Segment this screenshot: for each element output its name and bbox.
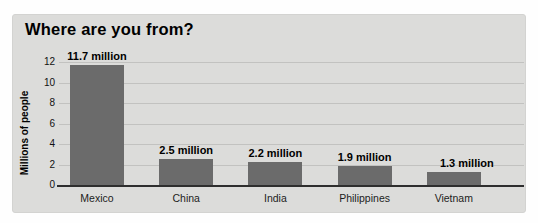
bar-value-label: 11.7 million (47, 50, 147, 63)
gridline (59, 103, 524, 104)
x-tick-label: Mexico (47, 192, 147, 204)
x-tick-label: Vietnam (404, 192, 504, 204)
bar (248, 162, 302, 185)
x-axis-line (57, 185, 524, 187)
bar-value-label: 1.3 million (417, 157, 517, 170)
bar-value-label: 2.5 million (136, 144, 236, 157)
page: Where are you from? Millions of people 0… (0, 0, 538, 223)
y-tick-label: 0 (23, 179, 55, 191)
bar (159, 159, 213, 185)
y-tick-label: 2 (23, 159, 55, 171)
bar-value-label: 1.9 million (315, 151, 415, 164)
y-tick-label: 6 (23, 118, 55, 130)
bar (427, 172, 481, 185)
gridline (59, 83, 524, 84)
y-tick-label: 10 (23, 77, 55, 89)
y-tick-label: 8 (23, 97, 55, 109)
bar (338, 166, 392, 185)
chart-panel: Where are you from? Millions of people 0… (12, 14, 526, 213)
x-tick-label: India (225, 192, 325, 204)
gridline (59, 124, 524, 125)
x-tick-label: China (136, 192, 236, 204)
y-tick-label: 4 (23, 138, 55, 150)
x-tick-label: Philippines (315, 192, 415, 204)
gridline (59, 144, 524, 145)
bar (70, 65, 124, 185)
bar-value-label: 2.2 million (225, 147, 325, 160)
plot-area: 02468101211.7 millionMexico2.5 millionCh… (13, 15, 525, 212)
